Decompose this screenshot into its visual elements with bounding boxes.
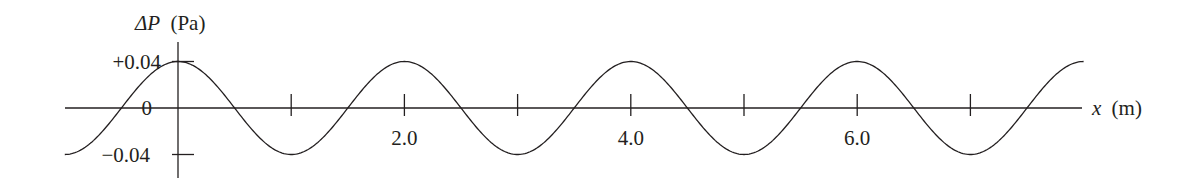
y-tick-label-negative: −0.04 bbox=[101, 143, 150, 167]
y-tick-label-positive: +0.04 bbox=[112, 50, 161, 74]
pressure-wave-chart: +0.04 0 −0.04 ΔP (Pa) x (m) 2.04.06.0 bbox=[0, 0, 1198, 192]
x-tick-label: 6.0 bbox=[844, 126, 870, 150]
x-tick-labels: 2.04.06.0 bbox=[391, 126, 870, 150]
x-axis-ticks bbox=[291, 94, 970, 116]
y-axis-unit: (Pa) bbox=[170, 11, 205, 35]
y-tick-label-zero: 0 bbox=[142, 96, 153, 120]
x-axis-symbol: x bbox=[1091, 96, 1102, 120]
x-axis-title: x (m) bbox=[1091, 96, 1142, 120]
x-tick-label: 2.0 bbox=[391, 126, 417, 150]
x-tick-label: 4.0 bbox=[618, 126, 644, 150]
x-axis-unit: (m) bbox=[1112, 96, 1142, 120]
y-axis-symbol: ΔP bbox=[134, 11, 160, 35]
y-axis-title: ΔP (Pa) bbox=[134, 11, 205, 35]
